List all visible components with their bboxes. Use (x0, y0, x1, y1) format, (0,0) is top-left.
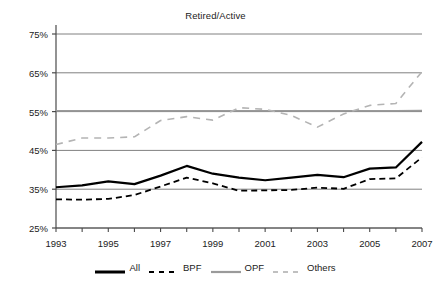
x-tick-label: 2005 (350, 238, 390, 249)
legend-item-opf[interactable]: OPF (211, 262, 265, 273)
legend-item-bpf[interactable]: BPF (149, 262, 201, 273)
x-tick-label: 2001 (245, 238, 285, 249)
legend-swatch-icon (273, 263, 303, 273)
legend-label: BPF (183, 262, 201, 273)
y-tick-label: 25% (14, 223, 48, 234)
x-tick-label: 1995 (88, 238, 128, 249)
legend-swatch-icon (211, 263, 241, 273)
data-series-group (56, 72, 422, 200)
axis-lines (56, 25, 422, 228)
y-tick-label: 55% (14, 106, 48, 117)
chart-legend: AllBPFOPFOthers (0, 262, 431, 273)
y-tick-label: 75% (14, 29, 48, 40)
x-tick-label: 2003 (297, 238, 337, 249)
legend-label: Others (307, 262, 336, 273)
x-tick-label: 1999 (193, 238, 233, 249)
legend-label: All (129, 262, 140, 273)
x-axis-ticks (56, 228, 422, 232)
series-line-others (56, 72, 422, 145)
y-tick-label: 45% (14, 145, 48, 156)
legend-item-others[interactable]: Others (273, 262, 336, 273)
legend-item-all[interactable]: All (95, 262, 140, 273)
y-tick-label: 35% (14, 184, 48, 195)
y-tick-label: 65% (14, 67, 48, 78)
x-tick-label: 1993 (36, 238, 76, 249)
x-tick-label: 1997 (141, 238, 181, 249)
series-line-all (56, 142, 422, 187)
x-tick-label: 2007 (402, 238, 437, 249)
legend-label: OPF (245, 262, 265, 273)
legend-swatch-icon (95, 263, 125, 273)
legend-swatch-icon (149, 263, 179, 273)
